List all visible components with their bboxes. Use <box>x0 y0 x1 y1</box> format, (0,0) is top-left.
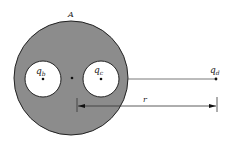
sphere-center-dot <box>71 77 74 80</box>
charge-c-dot <box>100 78 103 81</box>
label-charge-d: qd <box>210 65 220 76</box>
label-distance-r: r <box>143 95 148 104</box>
label-sphere-a: A <box>67 10 74 19</box>
arrowhead-right-icon <box>209 104 216 108</box>
conductor-diagram: A qb qc qd r <box>0 0 229 142</box>
charge-b-dot <box>42 78 45 81</box>
charge-d-dot <box>215 78 218 81</box>
